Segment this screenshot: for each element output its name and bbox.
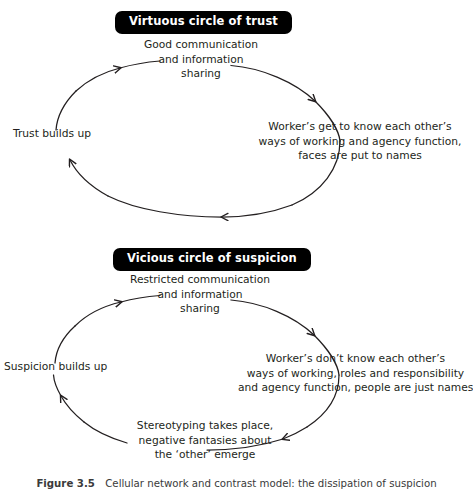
- arrow-c1-left-up: [76, 68, 120, 91]
- badge-vicious-circle-of-suspicion: Vicious circle of suspicion: [113, 248, 311, 271]
- arc-c1-left-upper: [56, 91, 76, 130]
- node-text-c2-right: Worker’s don’t know each other’sways of …: [238, 352, 473, 396]
- node-text-c2-bottom: Stereotyping takes place,negative fantas…: [115, 419, 295, 463]
- arrow-c1-bottom: [222, 205, 292, 217]
- arrow-c1-left-lower: [70, 160, 108, 196]
- arc-c2-left-upper: [55, 326, 75, 363]
- node-text-c1-top: Good communicationand informationsharing: [116, 38, 286, 82]
- node-text-c2-left: Suspicion builds up: [4, 360, 124, 375]
- figure-caption-text: Cellular network and contrast model: the…: [105, 478, 436, 489]
- node-text-c1-left: Trust builds up: [13, 127, 123, 142]
- badge-virtuous-circle-of-trust: Virtuous circle of trust: [115, 11, 292, 34]
- arc-c1-bottom-left: [108, 196, 222, 217]
- figure-caption: Figure 3.5 Cellular network and contrast…: [0, 477, 473, 490]
- node-text-c2-top: Restricted communicationand informations…: [110, 273, 290, 317]
- node-text-c1-right: Worker’s get to know each other’sways of…: [247, 120, 473, 164]
- arc-c2-left-lower: [54, 375, 62, 396]
- figure-caption-label: Figure 3.5: [36, 478, 102, 489]
- arrow-c2-bottom-left-up: [61, 396, 84, 422]
